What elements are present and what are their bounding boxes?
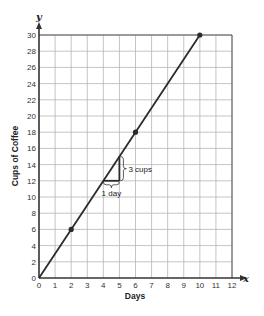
y-tick-label: 10 [27,193,36,202]
y-tick-label: 2 [32,258,37,267]
y-axis-label: Cups of Coffee [10,126,20,187]
y-tick-label: 6 [32,225,37,234]
y-tick-label: 4 [32,242,37,251]
x-tick-label: 7 [149,281,154,290]
data-point [133,130,138,135]
axes [36,22,247,281]
data-series [39,32,202,278]
y-tick-label: 12 [27,177,36,186]
y-tick-label: 14 [27,161,36,170]
x-tick-label: 8 [165,281,170,290]
x-tick-label: 6 [133,281,138,290]
rise-brace-icon [120,157,126,181]
x-tick-label: 0 [37,281,42,290]
y-axis-arrow-icon [36,22,42,29]
y-tick-label: 16 [27,144,36,153]
x-tick-label: 5 [117,281,122,290]
y-tick-label: 22 [27,96,36,105]
y-axis-variable: y [35,11,43,22]
grid-lines [39,35,232,278]
rise-label: 3 cups [128,165,152,174]
y-tick-label: 30 [27,31,36,40]
x-tick-label: 1 [53,281,58,290]
y-tick-label: 26 [27,63,36,72]
x-tick-label: 12 [228,281,237,290]
x-tick-label: 2 [69,281,74,290]
x-tick-label: 10 [195,281,204,290]
x-tick-label: 9 [182,281,187,290]
data-point [197,32,202,37]
x-tick-label: 4 [101,281,106,290]
y-tick-label: 24 [27,80,36,89]
x-axis-label: Days [125,291,146,301]
line-chart: 0123456789101112024681012141618202224262… [0,0,264,316]
x-tick-label: 3 [85,281,90,290]
run-brace-icon [103,182,119,188]
run-label: 1 day [102,189,122,198]
tick-labels: 0123456789101112024681012141618202224262… [27,31,237,290]
y-tick-label: 8 [32,209,37,218]
x-tick-label: 11 [212,281,221,290]
data-point [69,227,74,232]
y-tick-label: 18 [27,128,36,137]
y-tick-label: 0 [32,274,37,283]
x-axis-variable: x [242,273,250,284]
y-tick-label: 28 [27,47,36,56]
y-tick-label: 20 [27,112,36,121]
slope-annotation: 1 day3 cups [102,157,152,198]
